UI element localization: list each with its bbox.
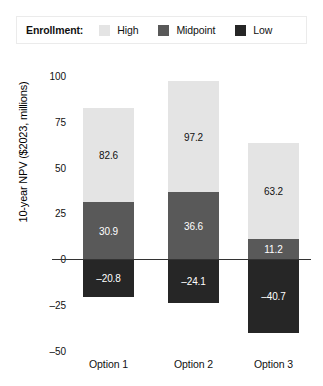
bar-value-label: 36.6 <box>168 220 219 231</box>
y-tick-label: –25 <box>30 299 66 310</box>
bar-value-label: –24.1 <box>168 276 219 287</box>
y-tick-label: 100 <box>30 71 66 82</box>
bar-group[interactable]: 63.211.2–40.7 <box>248 0 299 386</box>
x-tick-label: Option 1 <box>89 358 128 370</box>
plot-bars-area: 82.630.9–20.897.236.6–24.163.211.2–40.7 <box>72 0 308 386</box>
zero-baseline <box>52 259 311 260</box>
bar-value-label: 11.2 <box>248 243 299 254</box>
y-tick-label: 25 <box>30 208 66 219</box>
x-tick-label: Option 2 <box>174 358 213 370</box>
bar-value-label: 97.2 <box>168 131 219 142</box>
y-tick-label: 50 <box>30 162 66 173</box>
bar-value-label: 63.2 <box>248 185 299 196</box>
y-tick-label: 75 <box>30 116 66 127</box>
x-tick-label: Option 3 <box>254 358 293 370</box>
bar-group[interactable]: 82.630.9–20.8 <box>83 0 134 386</box>
y-axis-title: 10-year NPV ($2023, millions) <box>17 37 29 267</box>
bar-value-label: –40.7 <box>248 291 299 302</box>
bar-chart: 10-year NPV ($2023, millions) 1007550250… <box>0 0 323 386</box>
y-axis-ticks: 1007550250–25–50 <box>30 0 66 386</box>
y-tick-label: –50 <box>30 345 66 356</box>
bar-value-label: 82.6 <box>83 150 134 161</box>
bar-group[interactable]: 97.236.6–24.1 <box>168 0 219 386</box>
bar-value-label: –20.8 <box>83 273 134 284</box>
bar-value-label: 30.9 <box>83 225 134 236</box>
